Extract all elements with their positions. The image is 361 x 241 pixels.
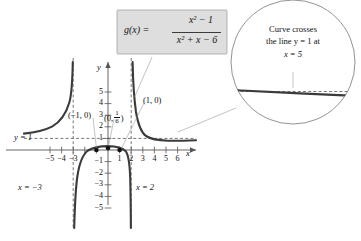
y-tick-label: 4 [89, 98, 103, 107]
leader-formula-to-curve [135, 57, 153, 97]
x-tick-label: 6 [171, 154, 185, 163]
y-tick-label: 3 [89, 110, 103, 119]
y-axis-arrow [105, 62, 110, 68]
inset-curve [222, 90, 361, 97]
leader-to-point-1-0 [121, 103, 144, 149]
vertical-asymptote-left-label: x = −3 [18, 182, 42, 192]
one-sixth-fraction: 1 6 [114, 110, 120, 125]
y-tick-label: −4 [89, 191, 103, 200]
formula-lhs: g(x) = [124, 24, 149, 35]
x-tick-label: −3 [66, 154, 80, 163]
point-label-open: (0, [104, 113, 113, 123]
magnifier-inset [222, 0, 361, 124]
x-axis-label: x [186, 148, 190, 158]
y-tick-label: −2 [89, 168, 103, 177]
x-axis-arrow [190, 147, 196, 152]
y-tick-label: 5 [89, 87, 103, 96]
y-axis-label: y [97, 62, 101, 72]
vertical-asymptote-right-label: x = 2 [136, 182, 154, 192]
horizontal-asymptote-label: y = 1 [14, 132, 32, 142]
formula-numerator: x² − 1 [179, 14, 223, 25]
curve-left-branch [24, 62, 73, 134]
y-tick-label: −5 [89, 203, 103, 212]
point-label-close: ) [121, 113, 124, 123]
leader-graph-to-inset [178, 108, 236, 132]
y-tick-label: 2 [89, 121, 103, 130]
point-neg1-0 [94, 148, 99, 153]
callout-line-3: x = 5 [243, 49, 343, 60]
fraction-denominator: 6 [115, 118, 119, 125]
rational-function-figure: g(x) = x² − 1 x² + x − 6 Curve crosses t… [0, 0, 361, 241]
y-tick-label: −3 [89, 179, 103, 188]
point-label-0-onesixth: (0, 1 6 ) [104, 110, 124, 125]
point-label-1-0: (1, 0) [143, 95, 161, 105]
point-0-onesixth [106, 146, 111, 151]
point-label-neg1-0: (−1, 0) [68, 110, 91, 120]
y-tick-label: −1 [89, 156, 103, 165]
inset-circle-outline [231, 0, 355, 124]
callout-line-2: the line y = 1 at [238, 36, 348, 47]
formula-denominator: x² + x − 6 [171, 34, 223, 45]
callout-line-1: Curve crosses [243, 24, 343, 35]
y-tick-label: 1 [89, 133, 103, 142]
